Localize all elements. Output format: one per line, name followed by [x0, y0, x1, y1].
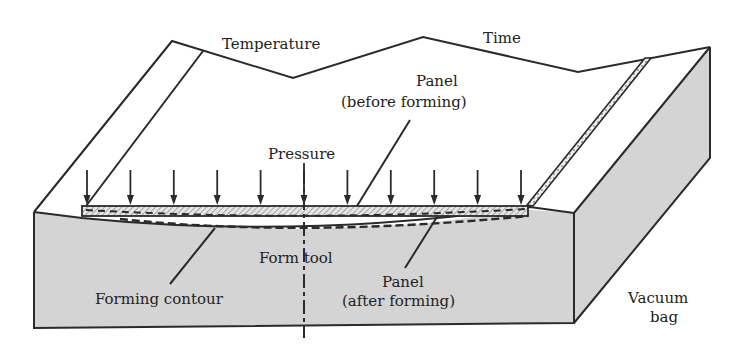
label-vacuum-bag-1: Vacuum	[627, 289, 688, 307]
vacuum-forming-diagram: Temperature Time Panel (before forming) …	[0, 0, 744, 356]
label-panel-before-2: (before forming)	[341, 93, 467, 111]
label-pressure: Pressure	[268, 145, 335, 163]
label-vacuum-bag-2: bag	[650, 308, 679, 326]
label-time: Time	[483, 29, 521, 47]
label-panel-before-1: Panel	[416, 72, 458, 90]
label-panel-after-2: (after forming)	[342, 292, 455, 310]
label-form-tool: Form tool	[259, 249, 333, 267]
label-panel-after-1: Panel	[382, 273, 424, 291]
label-temperature: Temperature	[222, 35, 320, 53]
label-forming-contour: Forming contour	[95, 290, 224, 308]
